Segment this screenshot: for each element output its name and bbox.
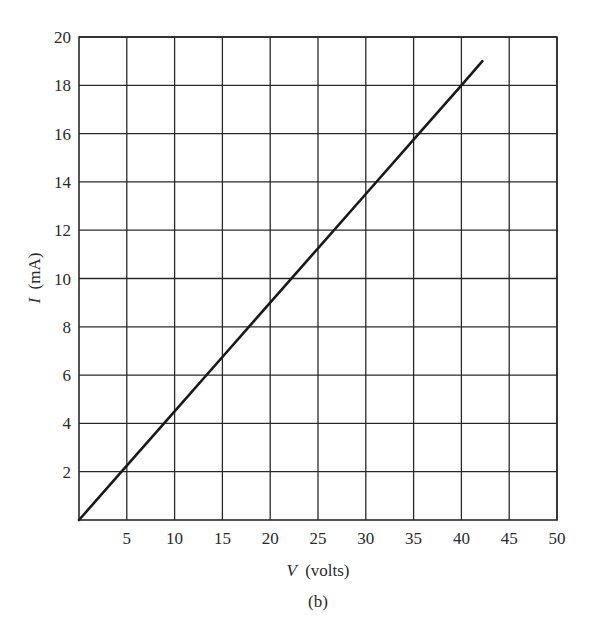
- x-tick-label: 15: [214, 529, 231, 548]
- figure-caption: (b): [308, 592, 328, 611]
- iv-chart: 5101520253035404550 2468101214161820 V (…: [0, 0, 591, 634]
- x-tick-label: 30: [357, 529, 374, 548]
- y-tick-label: 18: [54, 76, 71, 95]
- x-tick-label: 35: [405, 529, 422, 548]
- x-tick-label: 45: [501, 529, 518, 548]
- x-tick-label: 40: [453, 529, 470, 548]
- x-tick-labels: 5101520253035404550: [123, 529, 566, 548]
- x-axis-unit: (volts): [305, 561, 349, 580]
- y-tick-label: 8: [63, 318, 72, 337]
- x-tick-label: 5: [123, 529, 132, 548]
- y-tick-label: 14: [54, 173, 72, 192]
- x-axis-var: V: [286, 561, 299, 580]
- y-axis-unit: (mA): [25, 253, 44, 290]
- y-axis-label: I (mA): [25, 253, 44, 305]
- y-tick-label: 4: [63, 414, 72, 433]
- y-axis-var: I: [25, 296, 44, 304]
- y-tick-label: 10: [54, 270, 71, 289]
- x-tick-label: 50: [549, 529, 566, 548]
- y-tick-label: 6: [63, 366, 72, 385]
- x-tick-label: 25: [310, 529, 327, 548]
- y-tick-label: 12: [54, 221, 71, 240]
- y-tick-label: 16: [54, 125, 71, 144]
- y-tick-label: 2: [63, 463, 72, 482]
- x-tick-label: 20: [262, 529, 279, 548]
- data-line: [79, 61, 482, 520]
- x-axis-label: V (volts): [286, 561, 349, 580]
- grid-lines: [79, 37, 557, 520]
- y-tick-label: 20: [54, 28, 71, 47]
- y-tick-labels: 2468101214161820: [54, 28, 72, 482]
- x-tick-label: 10: [166, 529, 183, 548]
